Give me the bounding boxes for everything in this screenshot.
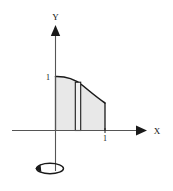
representative-strip (75, 82, 80, 130)
y-axis-tick-label: 1 (46, 73, 50, 82)
x-axis-label: X (154, 126, 161, 136)
x-axis-tick-label: 1 (103, 134, 107, 143)
y-axis-label: Y (52, 12, 59, 22)
solid-of-revolution-figure: Y X 1 1 (0, 0, 173, 191)
y-axis-arrowhead (51, 25, 60, 36)
figure-container: Y X 1 1 (0, 0, 173, 191)
x-axis-arrowhead (136, 126, 147, 136)
